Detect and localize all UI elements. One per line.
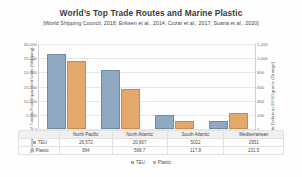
table-cell: 5022 <box>167 139 224 147</box>
table-cell: 26,572 <box>60 139 113 147</box>
table-body: TEU26,57220,80750222951Plastic964568.711… <box>19 139 284 155</box>
bar-group <box>93 44 147 129</box>
bar-group <box>39 44 93 129</box>
y-axis-tick: 30,000 <box>24 42 37 47</box>
bar-teu <box>101 70 120 129</box>
data-table: North PacificNorth AtlanticSouth Atlanti… <box>18 130 284 155</box>
y-axis-tick: 5,000 <box>26 112 37 117</box>
bar-plastic <box>229 113 248 129</box>
chart-legend: TEUPlastic <box>0 160 302 165</box>
plot-area: 30,00025,00020,00015,00010,0005,0000 1,2… <box>38 44 256 130</box>
y2-axis-tick: 200 <box>257 112 264 117</box>
table-cell: 964 <box>60 147 113 155</box>
table-cell: 568.7 <box>112 147 167 155</box>
legend-item[interactable]: TEU <box>131 160 145 165</box>
bar-teu <box>209 121 228 129</box>
y-axis-tick: 10,000 <box>24 98 37 103</box>
bar-plastic <box>67 61 86 129</box>
y2-axis-tick: 800 <box>257 70 264 75</box>
bar-teu <box>155 115 174 129</box>
y-axis-tick: 15,000 <box>24 84 37 89</box>
series-swatch-icon <box>33 141 36 144</box>
bar-group <box>201 44 255 129</box>
y2-axis-tick: 600 <box>257 84 264 89</box>
chart-subtitle: [World Shipping Council, 2018; Eriksen e… <box>0 20 302 27</box>
bar-plastic <box>121 89 140 129</box>
table-cell: 2951 <box>224 139 284 147</box>
table-cell: 231.5 <box>224 147 284 155</box>
table-corner-cell <box>19 131 60 139</box>
y2-axis-tick: 400 <box>257 98 264 103</box>
table-cell: 117.8 <box>167 147 224 155</box>
table-column-header: South Atlantic <box>167 131 224 139</box>
legend-swatch-icon <box>131 161 135 165</box>
table-row-header: Plastic <box>19 147 60 155</box>
y2-axis-tick: 1,000 <box>257 56 268 61</box>
legend-label: Plastic <box>158 160 172 165</box>
title-block: World’s Top Trade Routes and Marine Plas… <box>0 8 302 27</box>
table-column-header: North Pacific <box>60 131 113 139</box>
series-swatch-icon <box>31 149 34 152</box>
table-header-row: North PacificNorth AtlanticSouth Atlanti… <box>19 131 284 139</box>
legend-item[interactable]: Plastic <box>153 160 172 165</box>
table-row: Plastic964568.7117.8231.5 <box>19 147 284 155</box>
chart-container: World’s Top Trade Routes and Marine Plas… <box>0 0 302 177</box>
bar-teu <box>47 54 66 129</box>
chart-title: World’s Top Trade Routes and Marine Plas… <box>0 8 302 19</box>
table-row-header: TEU <box>19 139 60 147</box>
y-axis-tick: 20,000 <box>24 70 37 75</box>
table-row: TEU26,57220,80750222951 <box>19 139 284 147</box>
table-column-header: North Atlantic <box>112 131 167 139</box>
legend-label: TEU <box>136 160 145 165</box>
table-cell: 20,807 <box>112 139 167 147</box>
y-axis-tick: 25,000 <box>24 56 37 61</box>
table-column-header: Mediterranean <box>224 131 284 139</box>
y2-axis-tick: 1,200 <box>257 42 268 47</box>
bar-group <box>147 44 201 129</box>
bar-series-group <box>39 44 255 129</box>
legend-swatch-icon <box>153 161 157 165</box>
bar-plastic <box>175 121 194 129</box>
